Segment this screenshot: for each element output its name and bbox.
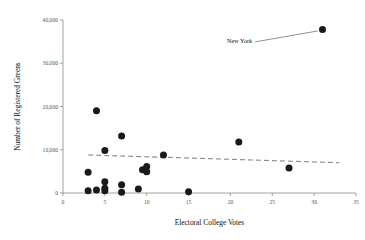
x-axis-tick-label: 25: [269, 199, 275, 205]
x-axis-tick-label: 15: [186, 199, 192, 205]
data-point: [185, 188, 192, 195]
data-point: [118, 132, 125, 139]
x-axis-title: Electoral College Votes: [175, 218, 245, 227]
data-point: [160, 151, 167, 158]
scatter-chart: 010,00020,00030,00040,000 05101520253035…: [0, 0, 365, 240]
data-point: [85, 169, 92, 176]
trendline-path: [88, 155, 339, 163]
y-axis-tick-label: 0: [55, 190, 58, 196]
y-axis-tick-label: 30,000: [43, 60, 59, 66]
chart-canvas: 010,00020,00030,00040,000 05101520253035…: [0, 0, 365, 240]
annotations: New York: [227, 31, 317, 44]
y-axis: 010,00020,00030,00040,000: [43, 17, 63, 196]
annotation-label: New York: [227, 37, 253, 44]
y-axis-tick-label: 20,000: [43, 104, 59, 110]
data-point: [93, 107, 100, 114]
x-axis-tick-label: 35: [353, 199, 359, 205]
data-point: [101, 185, 108, 192]
x-axis-tick-label: 10: [144, 199, 150, 205]
trendline: [88, 155, 339, 163]
data-point: [101, 147, 108, 154]
data-point: [93, 186, 100, 193]
y-axis-title: Number of Registered Greens: [13, 62, 22, 151]
y-axis-tick-label: 40,000: [43, 17, 59, 23]
data-points: [85, 26, 326, 196]
data-point: [101, 178, 108, 185]
data-point: [118, 189, 125, 196]
x-axis-tick-label: 30: [311, 199, 317, 205]
x-axis-tick-label: 20: [228, 199, 234, 205]
data-point: [135, 186, 142, 193]
x-axis-tick-label: 0: [62, 199, 65, 205]
data-point: [286, 164, 293, 171]
data-point: [85, 187, 92, 194]
data-point: [319, 26, 326, 33]
annotation-leader-line: [255, 31, 317, 42]
data-point: [118, 181, 125, 188]
x-axis-tick-label: 5: [103, 199, 106, 205]
data-point: [235, 138, 242, 145]
x-axis: 05101520253035: [62, 193, 359, 205]
data-point: [143, 168, 150, 175]
y-axis-tick-label: 10,000: [43, 147, 59, 153]
